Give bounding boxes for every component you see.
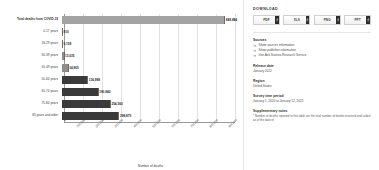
sources-heading: Sources [253, 38, 371, 42]
download-png-button[interactable]: PNG [314, 15, 341, 25]
region-label: Region [253, 79, 371, 83]
download-arrow-icon[interactable] [366, 16, 370, 24]
category-label: 75-84 years [2, 102, 62, 105]
category-label: 0-17 years [2, 30, 62, 33]
x-tick-label: 800,000 [208, 118, 219, 129]
x-tick-label: 300,000 [113, 118, 124, 129]
bar-value-label: 190,840 [99, 90, 110, 94]
source-link-label: Show sources information [259, 44, 295, 48]
panel-divider [253, 32, 371, 33]
download-arrow-icon[interactable] [275, 16, 279, 24]
bar-wrapper: 849,884 [62, 14, 235, 26]
bar[interactable]: 34,905 [62, 64, 69, 72]
bar-plot-cell: 34,905 [62, 62, 235, 74]
x-tick-label: 200,000 [94, 118, 105, 129]
chart-row: 30-39 years13,035 [2, 50, 235, 62]
x-tick-label: 900,000 [227, 118, 238, 129]
bar-plot-cell: 136,998 [62, 74, 235, 86]
chart-row: 65-74 years190,840 [2, 86, 235, 98]
source-link-item[interactable]: Show sources information [253, 44, 371, 48]
bar[interactable]: 190,840 [62, 88, 99, 96]
download-xls-button[interactable]: XLS [283, 15, 310, 25]
bar-value-label: 136,998 [89, 78, 100, 82]
download-button-label: XLS [294, 18, 300, 22]
statista-chart-page: Total deaths from COVID-19849,8840-17 ye… [0, 0, 379, 170]
bar-value-label: 13,035 [65, 54, 74, 58]
source-link-label: Show publisher information [259, 49, 296, 53]
category-label: 18-29 years [2, 42, 62, 45]
source-link-item[interactable]: Show publisher information [253, 49, 371, 53]
chart-row: 75-84 years254,560 [2, 98, 235, 110]
chart-row: Total deaths from COVID-19849,884 [2, 14, 235, 26]
release-date-value: January 2022 [253, 70, 371, 74]
bar-wrapper: 13,035 [62, 50, 235, 62]
bar-value-label: 254,560 [111, 102, 122, 106]
chart-row: 40-49 years34,905 [2, 62, 235, 74]
chart-x-tick-labels: 0100,000200,000300,000400,000500,000600,… [64, 118, 235, 132]
bar-value-label: 849,884 [226, 18, 237, 22]
sources-link-list: Show sources informationShow publisher i… [253, 44, 371, 58]
region-value: United States [253, 85, 371, 89]
release-date-label: Release date [253, 64, 371, 68]
category-label: 30-39 years [2, 54, 62, 57]
download-arrow-icon[interactable] [306, 16, 310, 24]
bar-wrapper: 190,840 [62, 86, 235, 98]
bar-value-label: 5,159 [64, 42, 72, 46]
source-link-label: Use Ask Statista Research Service [259, 54, 307, 58]
source-link-item[interactable]: Use Ask Statista Research Service [253, 54, 371, 58]
bar-value-label: 810 [64, 30, 69, 34]
chart-bar-rows: Total deaths from COVID-19849,8840-17 ye… [2, 14, 235, 122]
bar-plot-cell: 190,840 [62, 86, 235, 98]
download-heading: DOWNLOAD [253, 7, 371, 11]
arrow-right-icon [253, 49, 257, 53]
chart-row: 18-29 years5,159 [2, 38, 235, 50]
x-tick-label: 0 [63, 118, 67, 122]
category-label: 65-74 years [2, 90, 62, 93]
survey-period-block: Survey time period January 1, 2020 to Ja… [253, 94, 371, 104]
bar-wrapper: 254,560 [62, 98, 235, 110]
download-arrow-icon[interactable] [336, 16, 340, 24]
x-tick-label: 500,000 [151, 118, 162, 129]
download-button-label: PDF [263, 18, 270, 22]
supplementary-notes-value: * Number of deaths reported in this tabl… [253, 115, 371, 122]
survey-period-label: Survey time period [253, 94, 371, 98]
chart-row: 0-17 years810 [2, 26, 235, 38]
bar-plot-cell: 13,035 [62, 50, 235, 62]
survey-period-value: January 1, 2020 to January 12, 2022 [253, 100, 371, 104]
bar[interactable]: 136,998 [62, 76, 88, 84]
bar-plot-cell: 5,159 [62, 38, 235, 50]
chart-panel: Total deaths from COVID-19849,8840-17 ye… [0, 0, 243, 170]
arrow-right-icon [253, 44, 257, 48]
download-ppt-button[interactable]: PPT [344, 15, 371, 25]
bar-wrapper: 5,159 [62, 38, 235, 50]
bar-plot-cell: 849,884 [62, 14, 235, 26]
bar[interactable]: 13,035 [62, 52, 65, 60]
download-pdf-button[interactable]: PDF [253, 15, 280, 25]
download-button-label: PPT [354, 18, 360, 22]
category-label: 85 years and older [2, 114, 62, 117]
bar[interactable]: 254,560 [62, 100, 111, 108]
category-label: 40-49 years [2, 66, 62, 69]
supplementary-notes-label: Supplementary notes [253, 109, 371, 113]
bar[interactable]: 5,159 [62, 40, 63, 48]
bar[interactable]: 849,884 [62, 16, 225, 24]
bar-wrapper: 34,905 [62, 62, 235, 74]
bar-plot-cell: 810 [62, 26, 235, 38]
chart-row: 50-64 years136,998 [2, 74, 235, 86]
category-label: Total deaths from COVID-19 [2, 18, 62, 21]
arrow-right-icon [253, 54, 257, 58]
release-date-block: Release date January 2022 [253, 64, 371, 74]
download-button-label: PNG [324, 18, 331, 22]
x-tick-label: 100,000 [75, 118, 86, 129]
bar[interactable]: 810 [62, 28, 63, 36]
bar-wrapper: 136,998 [62, 74, 235, 86]
supplementary-notes-block: Supplementary notes * Number of deaths r… [253, 109, 371, 122]
download-side-panel: DOWNLOAD PDFXLSPNGPPT Sources Show sourc… [243, 0, 379, 170]
x-tick-label: 400,000 [132, 118, 143, 129]
category-label: 50-64 years [2, 78, 62, 81]
x-tick-label: 600,000 [170, 118, 181, 129]
chart-area: Total deaths from COVID-19849,8840-17 ye… [2, 6, 239, 132]
bar-plot-cell: 254,560 [62, 98, 235, 110]
region-block: Region United States [253, 79, 371, 89]
x-tick-label: 700,000 [189, 118, 200, 129]
